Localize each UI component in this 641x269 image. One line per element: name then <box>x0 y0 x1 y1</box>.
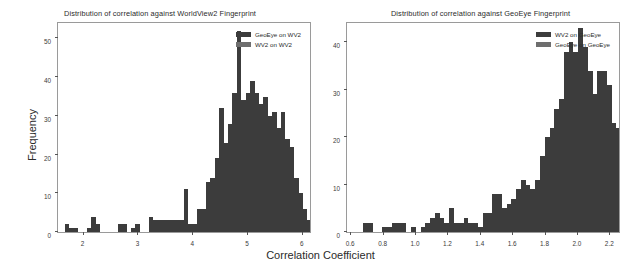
chart-panel-worldview2: Distribution of correlation against Worl… <box>0 0 320 269</box>
legend-label: WV2 on GeoEye <box>555 31 601 38</box>
x-tick <box>302 232 303 235</box>
x-tick-label: 1.6 <box>508 240 517 247</box>
histogram-bars-left <box>58 23 310 232</box>
x-tick <box>247 232 248 235</box>
histogram-bar <box>368 223 373 233</box>
x-tick <box>137 232 138 235</box>
plot-axes-left: 23456 01020304050 GeoEye on WV2 WV2 on W… <box>57 22 311 233</box>
legend-swatch-icon <box>536 32 551 37</box>
x-tick <box>577 232 578 235</box>
x-tick-label: 4 <box>190 240 194 247</box>
histogram-bar <box>135 224 139 232</box>
legend-label: WV2 on WV2 <box>255 41 292 48</box>
x-tick <box>447 232 448 235</box>
histogram-bar <box>401 223 406 233</box>
x-tick-label: 2.0 <box>572 240 581 247</box>
y-tick <box>55 231 58 232</box>
legend-swatch-icon <box>236 42 251 47</box>
x-tick <box>545 232 546 235</box>
x-tick <box>350 232 351 235</box>
x-tick <box>383 232 384 235</box>
legend-swatch-icon <box>236 32 251 37</box>
legend-label: GeoEye on WV2 <box>255 31 301 38</box>
chart-title-right: Distribution of correlation against GeoE… <box>320 9 641 18</box>
histogram-bar <box>96 224 100 232</box>
x-tick <box>415 232 416 235</box>
x-tick-label: 6 <box>300 240 304 247</box>
chart-title-left: Distribution of correlation against Worl… <box>0 9 320 18</box>
y-tick <box>344 184 347 185</box>
y-tick <box>55 154 58 155</box>
legend-item: GeoEye on GeoEye <box>536 41 610 48</box>
x-tick <box>512 232 513 235</box>
x-tick <box>609 232 610 235</box>
histogram-bars-right <box>347 23 619 232</box>
plot-area-left <box>58 23 310 232</box>
legend-right[interactable]: WV2 on GeoEye GeoEye on GeoEye <box>533 29 613 50</box>
x-tick-label: 1.4 <box>475 240 484 247</box>
x-tick-label: 1.2 <box>443 240 452 247</box>
y-tick <box>55 192 58 193</box>
legend-item: GeoEye on WV2 <box>236 31 301 38</box>
x-tick-label: 2.2 <box>605 240 614 247</box>
histogram-bar <box>616 128 619 233</box>
histogram-bar <box>74 228 78 232</box>
y-tick <box>344 41 347 42</box>
plot-area-right <box>347 23 619 232</box>
y-tick <box>55 37 58 38</box>
y-tick <box>344 89 347 90</box>
legend-item: WV2 on GeoEye <box>536 31 610 38</box>
x-tick-label: 0.8 <box>378 240 387 247</box>
legend-left[interactable]: GeoEye on WV2 WV2 on WV2 <box>233 29 304 50</box>
histogram-bar <box>307 220 310 232</box>
x-tick-label: 5 <box>245 240 249 247</box>
x-tick-label: 1.8 <box>540 240 549 247</box>
x-tick-label: 0.6 <box>346 240 355 247</box>
x-tick <box>192 232 193 235</box>
x-tick <box>480 232 481 235</box>
x-tick-label: 3 <box>136 240 140 247</box>
legend-label: GeoEye on GeoEye <box>555 41 610 48</box>
x-axis-label-shared: Correlation Coefficient <box>0 249 641 261</box>
chart-panel-geoeye: Distribution of correlation against GeoE… <box>320 0 641 269</box>
y-tick <box>344 231 347 232</box>
y-tick <box>55 115 58 116</box>
y-tick <box>344 136 347 137</box>
x-tick <box>83 232 84 235</box>
x-tick-label: 1.0 <box>411 240 420 247</box>
legend-swatch-icon <box>536 42 551 47</box>
histogram-bar <box>122 224 126 232</box>
legend-item: WV2 on WV2 <box>236 41 301 48</box>
plot-axes-right: 0.60.81.01.21.41.61.82.02.2 010203040 WV… <box>346 22 620 233</box>
figure-canvas: Distribution of correlation against Worl… <box>0 0 641 269</box>
x-tick-label: 2 <box>81 240 85 247</box>
y-axis-label-left: Frequency <box>26 109 38 161</box>
y-tick <box>55 76 58 77</box>
